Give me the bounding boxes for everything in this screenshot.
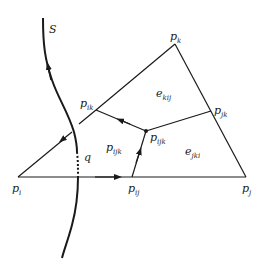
- label-pij-base: p: [128, 182, 135, 195]
- label-pjk-sub: jk: [221, 111, 227, 119]
- arrow-pijk-pik: [120, 120, 130, 124]
- label-pjk-base: p: [214, 104, 221, 117]
- label-pk-base: p: [170, 30, 177, 43]
- label-pijk-vertex: pijk: [150, 132, 166, 146]
- label-ekij: ekij: [156, 88, 171, 102]
- label-s: S: [49, 24, 57, 35]
- label-pik-sub: ik: [87, 104, 93, 112]
- label-pi: pi: [12, 183, 21, 197]
- label-pijk-region-base: p: [106, 141, 113, 154]
- label-pijk-vertex-base: p: [150, 131, 157, 144]
- label-pik: pik: [80, 98, 94, 112]
- label-pj-sub: j: [249, 189, 251, 197]
- label-pj: pj: [242, 183, 251, 197]
- curve-s-lower: [62, 177, 78, 258]
- label-pijk-region-sub: ijk: [113, 148, 122, 156]
- arrow-left-edge: [62, 132, 72, 140]
- triangle-curve-diagram: S pk pik pjk ekij pijk pijk ejki q pi pi…: [0, 0, 262, 276]
- vertex-pijk-dot: [144, 129, 148, 133]
- label-pk-sub: k: [177, 37, 181, 45]
- label-pi-base: p: [12, 182, 19, 195]
- label-pij-sub: ij: [135, 189, 139, 197]
- edge-pijk-pjk: [146, 111, 211, 131]
- label-pk: pk: [170, 31, 181, 45]
- triangle: [18, 44, 246, 177]
- label-pjk: pjk: [214, 105, 227, 119]
- label-pi-sub: i: [19, 189, 21, 197]
- label-ejki-sub: jki: [192, 152, 201, 160]
- label-pij: pij: [128, 183, 139, 197]
- label-ekij-sub: kij: [163, 94, 172, 102]
- label-pijk-vertex-sub: ijk: [157, 138, 166, 146]
- curve-s-dashed: [77, 152, 78, 177]
- label-q: q: [84, 152, 91, 163]
- label-pik-base: p: [80, 97, 87, 110]
- edge-pi-up: [18, 139, 64, 177]
- label-ejki: ejki: [185, 146, 200, 160]
- label-pijk-region: pijk: [106, 142, 122, 156]
- diagram-canvas: [0, 0, 262, 276]
- edge-pik-q: [79, 110, 96, 124]
- arrow-pij-pijk: [136, 151, 140, 163]
- label-pj-base: p: [242, 182, 249, 195]
